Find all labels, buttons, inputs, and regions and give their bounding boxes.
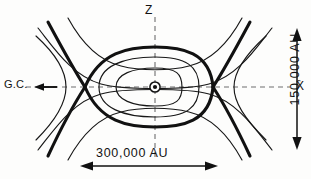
- field-line-diagram: G.C. X Z 300,000 AU 150,000 AU: [0, 0, 311, 179]
- sun-symbol-icon: [150, 82, 160, 92]
- horizontal-dimension-label: 300,000 AU: [96, 147, 168, 160]
- vertical-dimension-label: 150,000 AU: [289, 29, 302, 109]
- outer-contour-upper-1: [68, 18, 242, 70]
- z-axis-label: Z: [145, 4, 153, 16]
- double-arrow-horizontal-icon: [80, 161, 218, 170]
- asymptote-lower-left: [48, 87, 85, 156]
- arrow-left-icon: [34, 83, 57, 91]
- asymptote-upper-right: [213, 22, 250, 87]
- separatrix-upper: [85, 47, 213, 87]
- galactic-center-label: G.C.: [4, 79, 27, 90]
- lobe-contour-right: [234, 36, 266, 140]
